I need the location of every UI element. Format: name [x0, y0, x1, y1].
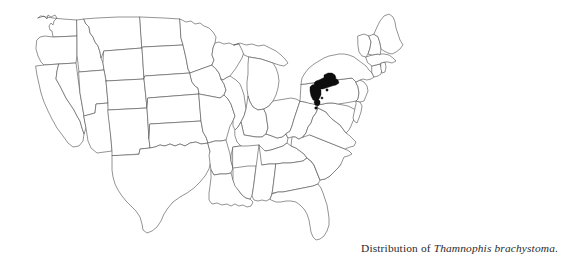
range-spot-2	[326, 89, 328, 91]
state-ar	[208, 140, 233, 175]
figure-caption: Distribution of Thamnophis brachystoma.	[361, 242, 558, 254]
caption-species-name: Thamnophis brachystoma	[434, 242, 555, 254]
range-spot-6	[334, 79, 336, 81]
state-fl	[270, 184, 329, 240]
caption-suffix: .	[555, 242, 558, 254]
state-wy	[103, 48, 144, 81]
range-spot-3	[321, 97, 323, 99]
state-ri	[381, 62, 386, 73]
state-co	[106, 79, 147, 110]
range-spot-4	[315, 107, 318, 110]
range-blob-lobe-south	[314, 99, 320, 106]
state-nd	[140, 17, 183, 48]
state-outlines	[36, 14, 403, 240]
range-spot-1	[329, 83, 332, 86]
state-de	[353, 101, 362, 123]
range-spot-5	[311, 92, 313, 94]
state-tx	[112, 142, 211, 233]
state-wa	[38, 15, 77, 37]
distribution-figure: Distribution of Thamnophis brachystoma.	[0, 0, 564, 268]
state-or	[36, 36, 77, 65]
us-distribution-map	[0, 0, 564, 268]
caption-prefix: Distribution of	[361, 242, 434, 254]
